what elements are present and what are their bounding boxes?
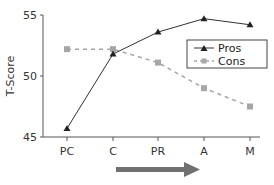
line-chart: 55 50 45 T-Score PC C PR A M Pros Cons bbox=[0, 0, 274, 185]
y-ticks: 55 50 45 bbox=[23, 9, 43, 144]
y-axis-title: T-Score bbox=[4, 56, 17, 98]
square-marker-icon bbox=[247, 104, 253, 110]
x-tick-label: M bbox=[245, 145, 255, 158]
series-line-pros bbox=[67, 19, 250, 129]
square-marker-icon bbox=[64, 46, 70, 52]
triangle-marker-icon bbox=[201, 15, 208, 21]
y-tick-label: 45 bbox=[23, 131, 37, 144]
triangle-marker-icon bbox=[64, 125, 71, 131]
x-tick-label: PR bbox=[151, 145, 166, 158]
series-pros bbox=[64, 15, 254, 131]
legend-label-cons: Cons bbox=[218, 55, 245, 68]
square-marker-icon bbox=[202, 59, 207, 64]
legend: Pros Cons bbox=[187, 40, 267, 68]
progress-arrow-icon bbox=[116, 162, 200, 177]
x-tick-label: A bbox=[200, 145, 208, 158]
square-marker-icon bbox=[201, 85, 207, 91]
x-ticks: PC C PR A M bbox=[60, 137, 255, 158]
x-tick-label: PC bbox=[60, 145, 75, 158]
legend-label-pros: Pros bbox=[218, 42, 241, 55]
square-marker-icon bbox=[155, 60, 161, 66]
y-tick-label: 50 bbox=[23, 70, 37, 83]
y-tick-label: 55 bbox=[23, 9, 37, 22]
x-tick-label: C bbox=[109, 145, 117, 158]
